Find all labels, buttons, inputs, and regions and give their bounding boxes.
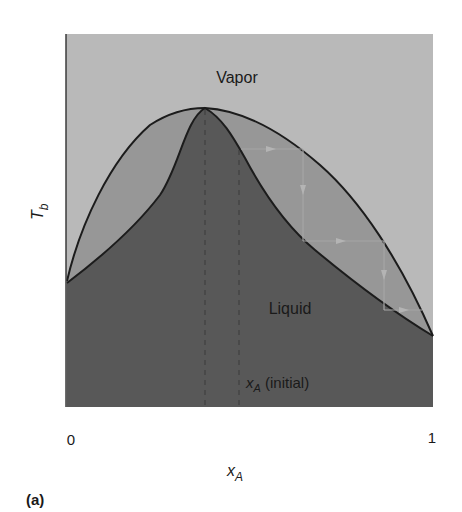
x-tick-0: 0 [67, 431, 75, 448]
liquid-label: Liquid [269, 300, 312, 317]
phase-diagram-figure: Vapor Liquid xA (initial) 0 1 xA Tb (a) [0, 0, 462, 512]
x-axis-label: xA [226, 462, 243, 484]
initial-sub: A [253, 382, 261, 394]
y-axis-label: Tb [29, 203, 51, 220]
panel-label: (a) [26, 491, 44, 508]
vapor-label: Vapor [216, 69, 258, 86]
x-label-sub: A [234, 470, 243, 484]
initial-suffix: (initial) [261, 374, 309, 391]
x-tick-1: 1 [428, 429, 436, 446]
y-label-sub: b [37, 203, 51, 210]
